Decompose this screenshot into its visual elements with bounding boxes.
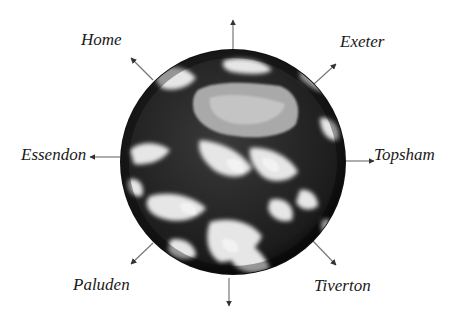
arrow-exeter-icon — [314, 64, 336, 84]
label-tiverton: Tiverton — [314, 277, 371, 294]
arrow-home-icon — [131, 58, 153, 80]
label-paluden: Paluden — [73, 276, 130, 293]
earth-globe-icon — [120, 49, 346, 275]
label-essendon: Essendon — [21, 146, 86, 163]
label-home: Home — [81, 31, 122, 48]
label-exeter: Exeter — [340, 33, 384, 50]
label-topsham: Topsham — [374, 146, 435, 163]
diagram-canvas — [0, 0, 461, 331]
earth-direction-diagram: HomeExeterEssendonTopshamPaludenTiverton — [0, 0, 461, 331]
arrow-tiverton-icon — [312, 240, 336, 265]
arrow-paluden-icon — [131, 243, 153, 264]
